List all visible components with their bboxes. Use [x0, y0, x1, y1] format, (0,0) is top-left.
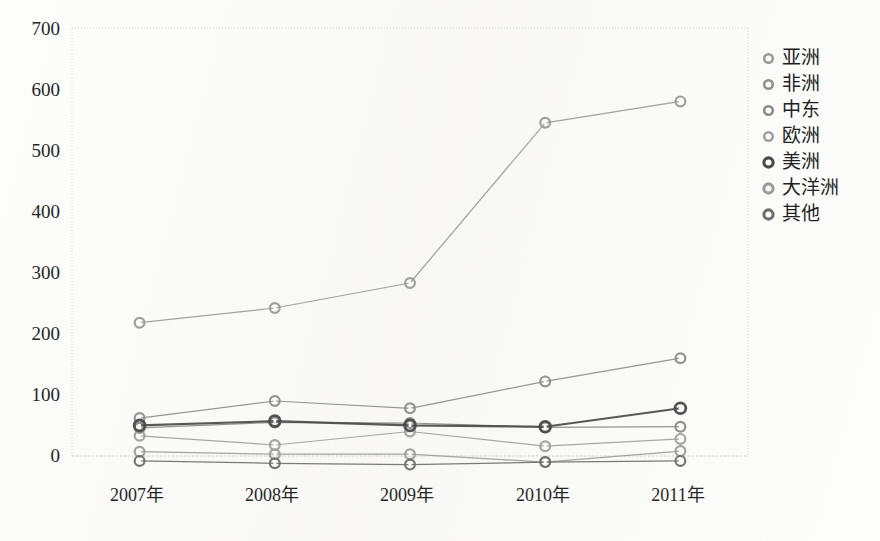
data-point-marker-hole — [273, 443, 276, 446]
legend-marker-circle-icon — [762, 77, 775, 90]
data-point-marker-hole — [273, 306, 276, 309]
plot-border — [72, 28, 748, 456]
legend-item-label: 非洲 — [782, 74, 820, 93]
y-tick-label: 100 — [4, 384, 60, 406]
legend-item-europe[interactable]: 欧洲 — [762, 122, 878, 148]
data-point-marker-hole — [273, 420, 276, 423]
data-point-marker-hole — [544, 380, 547, 383]
legend-item-label: 中东 — [782, 100, 820, 119]
y-tick-label: 0 — [4, 445, 60, 467]
data-point-marker-hole — [408, 453, 411, 456]
data-point-marker-hole — [138, 450, 141, 453]
data-point-marker-hole — [679, 459, 682, 462]
data-point-marker-hole — [544, 461, 547, 464]
series-line — [140, 432, 681, 447]
plot-canvas — [0, 0, 880, 541]
legend-item-other[interactable]: 其他 — [762, 200, 878, 226]
x-tick-label: 2007年 — [82, 480, 192, 506]
chart-legend: 亚洲 非洲 中东 欧洲 美洲 大洋洲 其他 — [762, 44, 878, 226]
legend-item-label: 亚洲 — [782, 48, 820, 67]
data-point-marker-hole — [544, 425, 547, 428]
legend-marker-circle-icon — [762, 155, 775, 168]
legend-marker-circle-icon — [762, 51, 775, 64]
series-group — [134, 97, 686, 470]
legend-item-oceania[interactable]: 大洋洲 — [762, 174, 878, 200]
legend-marker-circle-icon — [762, 181, 775, 194]
data-point-marker-hole — [273, 399, 276, 402]
x-tick-label: 2009年 — [352, 480, 462, 506]
legend-item-label: 欧洲 — [782, 126, 820, 145]
y-tick-label: 200 — [4, 323, 60, 345]
data-point-marker-hole — [408, 424, 411, 427]
data-point-marker-hole — [679, 425, 682, 428]
legend-item-asia[interactable]: 亚洲 — [762, 44, 878, 70]
legend-marker-circle-icon — [762, 129, 775, 142]
series-line — [140, 101, 681, 322]
data-point-marker-hole — [138, 434, 141, 437]
y-tick-label: 300 — [4, 262, 60, 284]
data-point-marker-hole — [544, 445, 547, 448]
data-series — [135, 353, 686, 423]
data-point-marker-hole — [408, 407, 411, 410]
data-point-marker-hole — [273, 462, 276, 465]
legend-item-label: 美洲 — [782, 152, 820, 171]
data-point-marker-hole — [408, 463, 411, 466]
data-point-marker-hole — [679, 450, 682, 453]
legend-item-africa[interactable]: 非洲 — [762, 70, 878, 96]
line-chart: 700 600 500 400 300 200 100 0 2007年 2008… — [0, 0, 880, 541]
data-point-marker-hole — [408, 281, 411, 284]
data-point-marker-hole — [138, 424, 141, 427]
legend-item-label: 大洋洲 — [782, 178, 839, 197]
legend-item-americas[interactable]: 美洲 — [762, 148, 878, 174]
data-series — [135, 97, 686, 328]
data-point-marker-hole — [679, 357, 682, 360]
x-tick-label: 2011年 — [623, 480, 733, 506]
data-point-marker-hole — [679, 100, 682, 103]
data-point-marker-hole — [679, 407, 682, 410]
x-tick-label: 2010年 — [488, 480, 598, 506]
data-point-marker-hole — [273, 453, 276, 456]
legend-item-label: 其他 — [782, 204, 820, 223]
legend-marker-circle-icon — [762, 207, 775, 220]
data-point-marker-hole — [138, 321, 141, 324]
legend-marker-circle-icon — [762, 103, 775, 116]
y-tick-label: 500 — [4, 140, 60, 162]
data-point-marker-hole — [679, 437, 682, 440]
y-tick-label: 600 — [4, 79, 60, 101]
y-tick-label: 700 — [4, 18, 60, 40]
y-tick-label: 400 — [4, 201, 60, 223]
data-point-marker-hole — [544, 121, 547, 124]
x-tick-label: 2008年 — [217, 480, 327, 506]
legend-item-middle-east[interactable]: 中东 — [762, 96, 878, 122]
data-point-marker-hole — [138, 459, 141, 462]
